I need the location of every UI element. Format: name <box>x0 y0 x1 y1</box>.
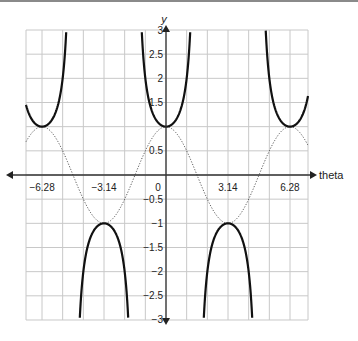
x-tick-label: 6.28 <box>280 182 300 193</box>
y-tick-label: 2 <box>157 73 163 84</box>
y-axis-down-arrow-icon <box>162 318 170 325</box>
x-tick-label: −3.14 <box>91 182 117 193</box>
y-tick-label: −2 <box>152 266 164 277</box>
y-tick-label: −0.5 <box>143 194 163 205</box>
x-axis-right-arrow-icon <box>310 171 317 179</box>
y-tick-label: 2.5 <box>149 49 163 60</box>
y-tick-label: −1 <box>152 218 164 229</box>
y-axis-up-arrow-icon <box>162 25 170 32</box>
x-tick-label: −6.28 <box>29 182 55 193</box>
y-tick-label: 0.5 <box>149 145 163 156</box>
x-axis-label: theta <box>319 169 344 181</box>
secant-branch <box>26 32 66 126</box>
y-tick-label: −2.5 <box>143 290 163 301</box>
trig-graph: thetay −6.28−3.1403.146.2832.521.50.5−0.… <box>0 0 358 341</box>
y-tick-label: 1.5 <box>149 97 163 108</box>
y-axis-label: y <box>160 13 168 25</box>
y-tick-label: −1.5 <box>143 242 163 253</box>
axes: thetay <box>6 13 344 325</box>
y-tick-label: −3 <box>152 314 164 325</box>
x-tick-label: 3.14 <box>218 182 238 193</box>
y-tick-label: 3 <box>157 25 163 36</box>
x-tick-label: 0 <box>155 182 161 193</box>
curves <box>26 31 308 318</box>
x-axis-left-arrow-icon <box>6 171 13 179</box>
